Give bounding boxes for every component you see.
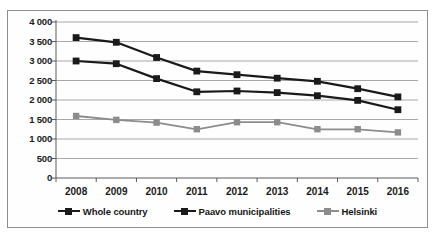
chart-legend: Whole countryPaavo municipalitiesHelsink… xyxy=(7,202,428,220)
legend-item[interactable]: Helsinki xyxy=(317,206,378,217)
x-axis-tick-label: 2009 xyxy=(96,186,136,197)
y-axis-tick-label: 1 000 xyxy=(10,134,52,144)
y-axis-tick-label: 2 500 xyxy=(10,76,52,86)
x-axis-tick-label: 2015 xyxy=(338,186,378,197)
x-axis-tick-label: 2010 xyxy=(137,186,177,197)
legend-item[interactable]: Paavo municipalities xyxy=(174,206,291,217)
y-axis-tick-label: 500 xyxy=(10,154,52,164)
y-axis-tick-label: 1 500 xyxy=(10,115,52,125)
legend-label: Paavo municipalities xyxy=(199,206,291,217)
legend-item[interactable]: Whole country xyxy=(58,206,148,217)
x-axis-tick-label: 2011 xyxy=(177,186,217,197)
y-axis-tick-label: 0 xyxy=(10,173,52,183)
x-axis-tick-label: 2012 xyxy=(217,186,257,197)
y-axis-tick-label: 3 500 xyxy=(10,37,52,47)
legend-marker-icon xyxy=(58,207,80,216)
x-axis-tick-label: 2014 xyxy=(297,186,337,197)
x-axis-tick-label: 2008 xyxy=(56,186,96,197)
y-axis-tick-label: 3 000 xyxy=(10,56,52,66)
x-axis-tick-label: 2013 xyxy=(257,186,297,197)
x-axis-tick-label: 2016 xyxy=(378,186,418,197)
legend-marker-icon xyxy=(174,207,196,216)
legend-label: Whole country xyxy=(83,206,148,217)
y-axis-tick-label: 4 000 xyxy=(10,17,52,27)
legend-marker-icon xyxy=(317,207,339,216)
legend-label: Helsinki xyxy=(342,206,378,217)
y-axis-tick-label: 2 000 xyxy=(10,95,52,105)
chart-container: 05001 0001 5002 0002 5003 0003 5004 000 … xyxy=(0,0,435,237)
